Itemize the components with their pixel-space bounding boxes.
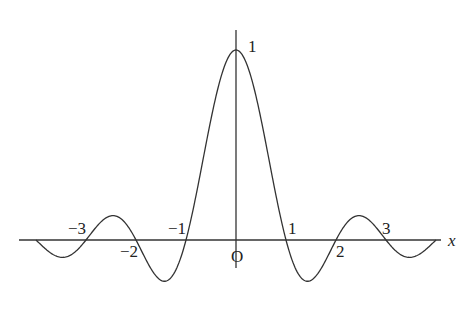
x-axis-label: x xyxy=(447,231,456,250)
x-tick-label-2: 2 xyxy=(336,242,345,261)
sinc-chart: x O 1 −3 −2 −1 1 2 3 xyxy=(0,0,476,312)
x-tick-label-neg3: −3 xyxy=(68,219,86,238)
origin-label: O xyxy=(231,247,243,266)
x-tick-label-neg2: −2 xyxy=(120,242,138,261)
x-tick-label-1: 1 xyxy=(288,219,297,238)
y-tick-label-1: 1 xyxy=(248,37,257,56)
x-tick-label-neg1: −1 xyxy=(168,219,186,238)
x-tick-label-3: 3 xyxy=(382,219,391,238)
